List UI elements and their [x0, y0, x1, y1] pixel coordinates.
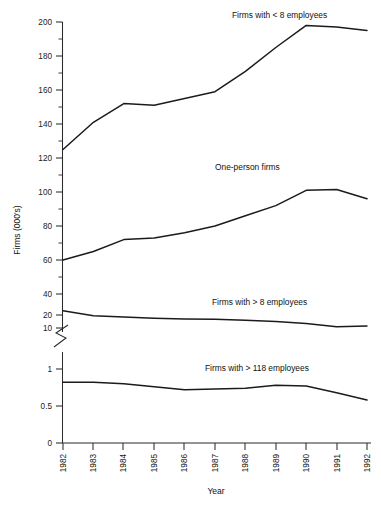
series-line-firms-over-118: [63, 382, 367, 400]
series-line-one-person: [63, 189, 367, 260]
y-axis-title: Firms (000's): [12, 205, 22, 254]
x-tick-label-1992: 1992: [363, 454, 372, 473]
y-tick-label-60: 60: [43, 256, 53, 265]
series-label-firms-under-8: Firms with < 8 employees: [232, 10, 327, 20]
x-tick-label-1984: 1984: [119, 454, 128, 473]
x-tick-label-1991: 1991: [333, 454, 342, 473]
series-line-firms-under-8: [63, 25, 367, 149]
y-tick-label-0point5: 0.5: [41, 402, 53, 411]
y-tick-label-20: 20: [43, 311, 53, 320]
series-line-firms-over-8: [63, 311, 367, 327]
y-axis-ticks-lower: [56, 369, 63, 443]
line-chart-canvas: Firms (000's): [0, 0, 381, 505]
x-tick-label-1990: 1990: [302, 454, 311, 473]
y-tick-label-100: 100: [38, 188, 52, 197]
y-tick-label-200: 200: [38, 18, 52, 27]
x-axis-ticks: [63, 443, 367, 450]
y-tick-label-1: 1: [47, 365, 52, 374]
x-tick-label-1989: 1989: [272, 454, 281, 473]
y-tick-label-120: 120: [38, 154, 52, 163]
y-tick-label-80: 80: [43, 222, 53, 231]
x-axis-title: Year: [207, 486, 224, 496]
y-tick-label-140: 140: [38, 120, 52, 129]
y-tick-label-40: 40: [43, 290, 53, 299]
y-tick-label-0: 0: [47, 439, 52, 448]
x-tick-label-1987: 1987: [211, 454, 220, 473]
series-label-one-person: One-person firms: [215, 162, 280, 172]
y-tick-label-160: 160: [38, 86, 52, 95]
y-tick-label-180: 180: [38, 52, 52, 61]
chart-figure: Firms (000's): [0, 0, 381, 505]
series-label-firms-over-118: Firms with > 118 employees: [205, 363, 309, 373]
x-tick-label-1983: 1983: [89, 454, 98, 473]
series-label-firms-over-8: Firms with > 8 employees: [212, 297, 307, 307]
x-tick-label-1986: 1986: [180, 454, 189, 473]
x-tick-label-1985: 1985: [150, 454, 159, 473]
x-tick-label-1982: 1982: [59, 454, 68, 473]
x-tick-label-1988: 1988: [241, 454, 250, 473]
y-axis-ticks-upper: [56, 22, 63, 328]
y-tick-label-10: 10: [43, 324, 53, 333]
